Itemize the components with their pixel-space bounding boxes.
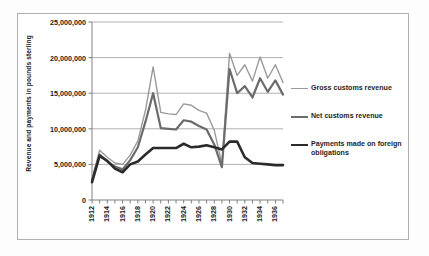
x-tick-label: 1914 xyxy=(103,206,110,222)
legend-item: Gross customs revenue xyxy=(291,84,403,94)
legend-item: Net customs revenue xyxy=(291,112,403,122)
legend-item: Payments made on foreign obligations xyxy=(291,140,403,159)
x-tick-label: 1930 xyxy=(226,206,233,222)
x-tick-label: 1928 xyxy=(210,206,217,222)
x-tick-label: 1934 xyxy=(256,206,263,222)
x-tick-label: 1918 xyxy=(134,206,141,222)
x-tick-label: 1936 xyxy=(271,206,278,222)
x-tick-label: 1924 xyxy=(180,206,187,222)
x-tick-label: 1920 xyxy=(149,206,156,222)
x-tick-label: 1926 xyxy=(195,206,202,222)
legend-label: Net customs revenue xyxy=(311,112,403,121)
x-tick-label: 1916 xyxy=(119,206,126,222)
legend-label: Gross customs revenue xyxy=(311,84,403,93)
x-tick-label: 1922 xyxy=(164,206,171,222)
legend-swatch-icon xyxy=(291,144,308,146)
legend-swatch-icon xyxy=(291,116,308,118)
figure-container: 25,000,00020,000,00015,000,00010,000,000… xyxy=(0,0,429,256)
x-tick-label: 1912 xyxy=(88,206,95,222)
x-tick-label: 1932 xyxy=(241,206,248,222)
y-axis-title: Revenue and payments in pounds sterling xyxy=(25,14,32,194)
legend-label: Payments made on foreign obligations xyxy=(311,140,403,159)
legend-swatch-icon xyxy=(291,88,308,89)
chart-legend: Gross customs revenueNet customs revenue… xyxy=(291,84,403,177)
